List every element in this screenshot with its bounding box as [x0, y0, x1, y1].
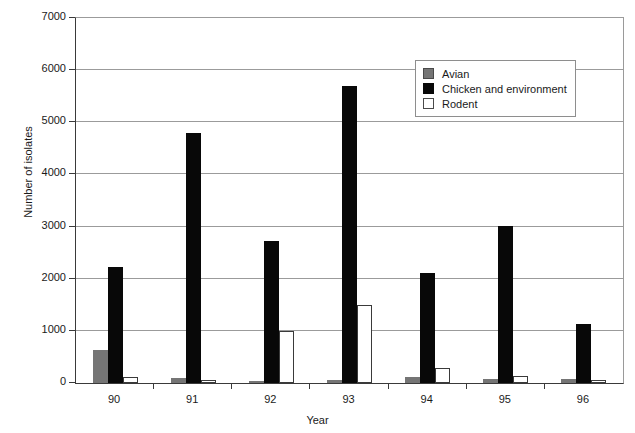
x-tick-mark: [153, 383, 154, 389]
bar-93-rodent: [357, 305, 372, 383]
bar-94-avian: [405, 377, 420, 383]
legend-label: Rodent: [442, 98, 477, 110]
bar-92-rodent: [279, 331, 294, 383]
x-tick-label-92: 92: [250, 393, 290, 405]
bar-92-chicken: [264, 241, 279, 383]
x-tick-mark: [388, 383, 389, 389]
bar-91-rodent: [201, 380, 216, 383]
bar-91-avian: [171, 378, 186, 383]
bar-chart: Number of isolates 010002000300040005000…: [0, 0, 635, 433]
bar-95-chicken: [498, 226, 513, 383]
legend-rows: AvianChicken and environmentRodent: [423, 66, 567, 111]
bar-93-chicken: [342, 86, 357, 383]
bar-90-rodent: [123, 377, 138, 383]
x-tick-mark: [309, 383, 310, 389]
x-tick-label-95: 95: [485, 393, 525, 405]
bar-91-chicken: [186, 133, 201, 383]
bar-90-chicken: [108, 267, 123, 383]
bar-95-avian: [483, 379, 498, 383]
bar-96-rodent: [591, 380, 606, 383]
legend-swatch-icon: [423, 98, 434, 109]
y-tick-label: 4000: [0, 167, 66, 178]
x-tick-label-94: 94: [407, 393, 447, 405]
x-axis-title: Year: [0, 414, 635, 426]
bar-90-avian: [93, 350, 108, 383]
bar-93-avian: [327, 380, 342, 383]
legend-item-avian: Avian: [423, 66, 567, 81]
x-tick-label-91: 91: [172, 393, 212, 405]
y-tick-label: 1000: [0, 324, 66, 335]
y-tick-label: 2000: [0, 272, 66, 283]
bar-96-chicken: [576, 324, 591, 383]
x-tick-mark: [231, 383, 232, 389]
legend-label: Avian: [442, 68, 469, 80]
bar-95-rodent: [513, 376, 528, 383]
legend-swatch-icon: [423, 68, 434, 79]
chart-legend: AvianChicken and environmentRodent: [415, 60, 576, 117]
bar-92-avian: [249, 381, 264, 383]
y-tick-label: 0: [0, 376, 66, 387]
x-tick-label-90: 90: [94, 393, 134, 405]
y-tick-label: 6000: [0, 63, 66, 74]
y-tick-label: 3000: [0, 220, 66, 231]
legend-label: Chicken and environment: [442, 83, 567, 95]
legend-swatch-icon: [423, 83, 434, 94]
x-tick-label-96: 96: [563, 393, 603, 405]
gridline: [76, 17, 623, 18]
legend-item-chicken-and-environment: Chicken and environment: [423, 81, 567, 96]
bar-96-avian: [561, 379, 576, 383]
bar-94-rodent: [435, 368, 450, 383]
x-tick-label-93: 93: [329, 393, 369, 405]
x-tick-mark: [544, 383, 545, 389]
y-tick-label: 5000: [0, 115, 66, 126]
legend-item-rodent: Rodent: [423, 96, 567, 111]
x-tick-mark: [466, 383, 467, 389]
bar-94-chicken: [420, 273, 435, 383]
y-tick-label: 7000: [0, 11, 66, 22]
